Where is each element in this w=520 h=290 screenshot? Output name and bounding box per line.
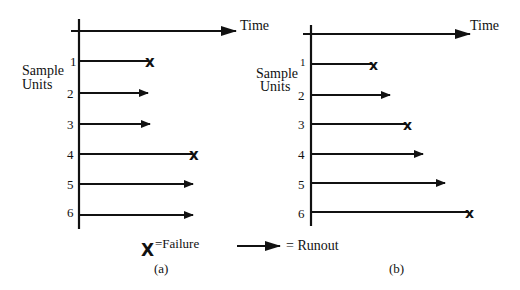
failure-x-icon: x xyxy=(403,117,412,133)
panel-b-time-label: Time xyxy=(470,18,499,33)
panel-b-unit-5-label: 5 xyxy=(298,177,305,192)
panel-a-unit-1-label: 1 xyxy=(70,54,77,69)
panel-a-unit-5-label: 5 xyxy=(67,177,74,192)
failure-x-icon: x xyxy=(145,53,155,71)
panel-a-units-label-line2: Units xyxy=(22,77,52,92)
legend-runout-label: = Runout xyxy=(286,238,339,253)
panel-b-unit-6-label: 6 xyxy=(298,206,305,221)
failure-x-icon: x xyxy=(189,146,199,164)
survival-diagram: Time Sample Units 1 x 2 3 4 x 5 6 (a) Ti… xyxy=(0,0,520,290)
panel-a: Time Sample Units 1 x 2 3 4 x 5 6 (a) xyxy=(22,18,269,276)
panel-b-unit-3-label: 3 xyxy=(298,117,305,132)
legend-failure-x-icon: X xyxy=(141,240,154,260)
panel-b-caption: (b) xyxy=(389,261,404,276)
panel-a-unit-2-label: 2 xyxy=(67,86,74,101)
panel-b-units-label-line2: Units xyxy=(260,79,290,94)
panel-a-unit-3-label: 3 xyxy=(67,117,74,132)
failure-x-icon: x xyxy=(369,57,378,73)
failure-x-icon: x xyxy=(465,205,474,221)
panel-a-caption: (a) xyxy=(154,261,168,276)
panel-b-unit-2-label: 2 xyxy=(298,88,305,103)
panel-a-unit-6-label: 6 xyxy=(67,205,74,220)
panel-a-unit-4-label: 4 xyxy=(67,147,74,162)
panel-b-unit-1-label: 1 xyxy=(300,56,306,68)
legend: X =Failure = Runout xyxy=(141,236,339,260)
panel-a-time-label: Time xyxy=(240,18,269,33)
panel-b-unit-4-label: 4 xyxy=(298,147,305,162)
legend-failure-label: =Failure xyxy=(155,236,199,251)
panel-a-units-label-line1: Sample xyxy=(22,63,64,78)
